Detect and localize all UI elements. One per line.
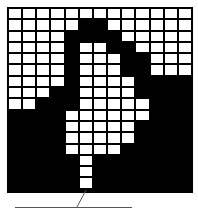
- grid-cell: [93, 87, 107, 98]
- grid-cell: [36, 42, 50, 53]
- grid-cell: [107, 166, 121, 177]
- grid-cell: [121, 155, 135, 166]
- grid-cell: [178, 53, 192, 64]
- grid-cell: [135, 8, 149, 19]
- grid-cell: [150, 110, 164, 121]
- grid-cell: [22, 8, 36, 19]
- grid-cell: [22, 31, 36, 42]
- grid-cell: [50, 166, 64, 177]
- grid-cell: [164, 64, 178, 75]
- grid-cell: [121, 132, 135, 143]
- grid-cell: [150, 64, 164, 75]
- grid-cell: [50, 19, 64, 30]
- grid-cell: [8, 76, 22, 87]
- grid-cell: [107, 144, 121, 155]
- grid-cell: [164, 121, 178, 132]
- grid-cell: [65, 8, 79, 19]
- grid-cell: [50, 8, 64, 19]
- grid-cell: [107, 64, 121, 75]
- grid-cell: [93, 19, 107, 30]
- grid-cell: [50, 42, 64, 53]
- grid-cell: [107, 42, 121, 53]
- grid-cell: [8, 132, 22, 143]
- grid-cell: [150, 98, 164, 109]
- grid-cell: [8, 8, 22, 19]
- grid-cell: [79, 166, 93, 177]
- grid-cell: [178, 98, 192, 109]
- grid-cell: [121, 98, 135, 109]
- grid-cell: [164, 98, 178, 109]
- grid-cell: [178, 8, 192, 19]
- grid-cell: [121, 144, 135, 155]
- grid-cell: [79, 87, 93, 98]
- grid-cell: [50, 177, 64, 188]
- grid-cell: [65, 42, 79, 53]
- grid-cell: [178, 64, 192, 75]
- grid-cell: [22, 166, 36, 177]
- grid-cell: [65, 155, 79, 166]
- grid-cell: [93, 42, 107, 53]
- grid-cell: [22, 132, 36, 143]
- grid-cell: [36, 31, 50, 42]
- grid-cell: [135, 177, 149, 188]
- grid-cell: [36, 98, 50, 109]
- grid-cell: [22, 177, 36, 188]
- grid-cell: [150, 121, 164, 132]
- grid-cell: [22, 42, 36, 53]
- grid-cell: [8, 121, 22, 132]
- grid-cell: [8, 64, 22, 75]
- grid-cell: [178, 42, 192, 53]
- grid-cell: [178, 76, 192, 87]
- grid-cell: [178, 19, 192, 30]
- grid-cell: [79, 8, 93, 19]
- grid-cell: [93, 8, 107, 19]
- grid-cell: [93, 132, 107, 143]
- grid-cell: [121, 42, 135, 53]
- grid-cell: [79, 121, 93, 132]
- grid-cell: [164, 8, 178, 19]
- grid-cell: [107, 132, 121, 143]
- grid-cell: [135, 110, 149, 121]
- grid-cell: [22, 121, 36, 132]
- grid-cell: [36, 132, 50, 143]
- grid-cell: [178, 87, 192, 98]
- grid-cell: [93, 64, 107, 75]
- grid-cell: [8, 31, 22, 42]
- grid-cell: [36, 155, 50, 166]
- grid-cell: [107, 87, 121, 98]
- grid-cell: [65, 132, 79, 143]
- grid-cell: [65, 144, 79, 155]
- grid-cell: [22, 144, 36, 155]
- grid-cell: [107, 98, 121, 109]
- grid-cell: [164, 155, 178, 166]
- grid-cell: [50, 53, 64, 64]
- grid-cell: [65, 166, 79, 177]
- grid-cell: [8, 144, 22, 155]
- grid-cell: [36, 19, 50, 30]
- grid-cell: [79, 110, 93, 121]
- grid-cell: [150, 8, 164, 19]
- grid-cell: [8, 155, 22, 166]
- grid-cell: [178, 166, 192, 177]
- grid-cell: [79, 155, 93, 166]
- grid-cell: [22, 155, 36, 166]
- grid-cell: [150, 76, 164, 87]
- grid-cell: [135, 144, 149, 155]
- grid-cell: [121, 64, 135, 75]
- grid-cell: [79, 177, 93, 188]
- grid-cell: [22, 19, 36, 30]
- grid-cell: [8, 53, 22, 64]
- grid-cell: [65, 110, 79, 121]
- grid-cell: [22, 110, 36, 121]
- grid-cell: [79, 42, 93, 53]
- grid-cell: [150, 132, 164, 143]
- grid-cell: [36, 110, 50, 121]
- grid-cell: [79, 144, 93, 155]
- grid-cell: [164, 177, 178, 188]
- grid-cell: [65, 31, 79, 42]
- grid-cell: [93, 53, 107, 64]
- grid-cell: [79, 31, 93, 42]
- grid-cell: [121, 19, 135, 30]
- grid-cell: [79, 53, 93, 64]
- grid-cell: [8, 166, 22, 177]
